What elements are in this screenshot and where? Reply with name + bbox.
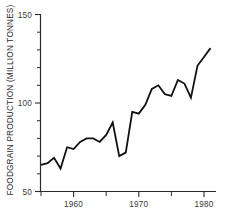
y-tick-label-150: 150 [18,11,33,20]
data-series-line [41,48,211,168]
y-tick-label-100: 100 [18,99,33,108]
x-tick-label-1960: 1960 [64,200,83,209]
x-tick-label-1970: 1970 [129,200,148,209]
x-axis-ticks [41,192,204,198]
y-tick-label-50: 50 [22,188,32,197]
plot-area: 150 100 50 1960 1970 1980 [0,0,235,216]
foodgrain-production-line-chart: FOODGRAIN PRODUCTION (MILLION TONNES) [0,0,235,216]
x-tick-label-1980: 1980 [194,200,213,209]
y-axis-major-ticks [35,15,41,192]
